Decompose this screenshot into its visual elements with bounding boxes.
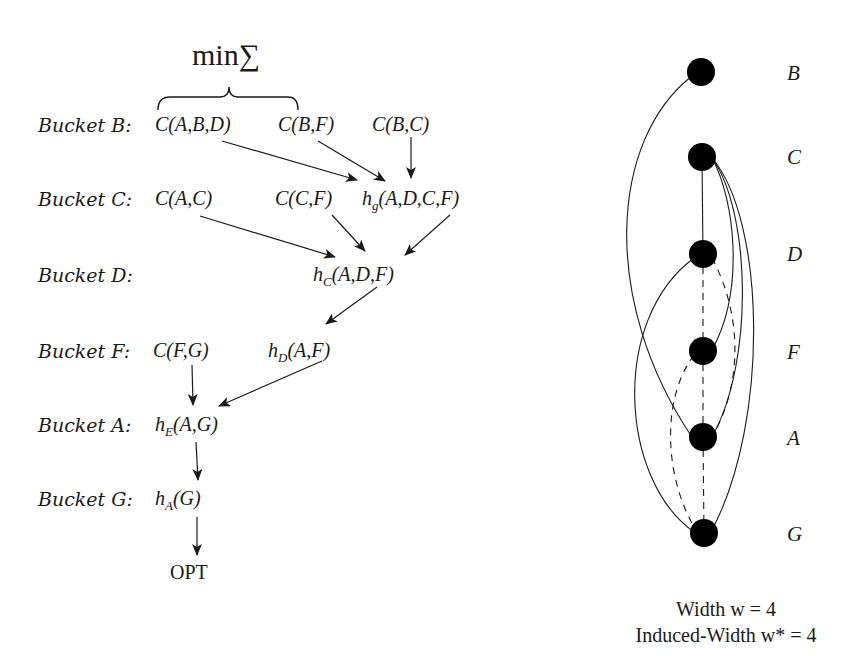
arrow-cfg-he <box>192 365 193 405</box>
diagram-lines <box>0 0 855 656</box>
bucket-a-label: Bucket A: <box>38 414 131 436</box>
node-label-g: G <box>787 522 802 547</box>
edge-c-g <box>712 158 754 530</box>
edge-a-g <box>703 437 704 533</box>
bucket-d-label: Bucket D: <box>38 264 133 286</box>
fn-he: hE(A,G) <box>155 413 218 440</box>
fn-ha: hA(G) <box>155 487 201 514</box>
arrow-hd-he <box>219 361 322 406</box>
result-opt: OPT <box>170 561 208 584</box>
fn-cbc: C(B,C) <box>372 113 429 136</box>
node-label-b: B <box>787 61 800 86</box>
bucket-f-label: Bucket F: <box>38 340 130 362</box>
caption-induced-width: Induced-Width w* = 4 <box>596 624 855 647</box>
node-a <box>689 423 717 451</box>
node-label-c: C <box>787 145 801 170</box>
node-b <box>687 58 715 86</box>
arrow-ccf-hc <box>332 215 365 251</box>
arrow-he-ha <box>196 442 198 480</box>
bucket-g-label: Bucket G: <box>38 488 133 510</box>
fn-ccf: C(C,F) <box>275 187 332 210</box>
fn-cac: C(A,C) <box>155 187 212 210</box>
fn-cfg: C(F,G) <box>153 339 209 362</box>
operator-label: min∑ <box>192 38 260 72</box>
node-d <box>689 240 717 268</box>
fn-hg: hg(A,D,C,F) <box>362 187 459 214</box>
node-label-f: F <box>787 340 800 365</box>
arrow-cabd-hg <box>222 141 357 180</box>
fn-hd: hD(A,F) <box>268 339 330 366</box>
node-label-d: D <box>787 242 802 267</box>
arrow-hg-hc <box>405 215 450 255</box>
node-label-a: A <box>787 426 800 451</box>
fn-cbf: C(B,F) <box>278 113 334 136</box>
fn-hc: hC(A,D,F) <box>313 263 394 290</box>
arrow-cac-hc <box>200 216 335 257</box>
node-c <box>688 143 716 171</box>
edge-d-g <box>635 258 694 532</box>
caption-width: Width w = 4 <box>596 598 855 621</box>
node-g <box>690 519 718 547</box>
arrow-cbf-hg <box>318 141 385 181</box>
fn-cabd: C(A,B,D) <box>155 113 231 136</box>
edge-b-a <box>627 76 692 437</box>
arrow-hc-hd <box>326 287 377 324</box>
bucket-b-label: Bucket B: <box>38 114 132 136</box>
node-f <box>689 337 717 365</box>
bucket-c-label: Bucket C: <box>38 188 132 210</box>
brace <box>158 87 298 110</box>
edge-c-d <box>702 157 703 254</box>
